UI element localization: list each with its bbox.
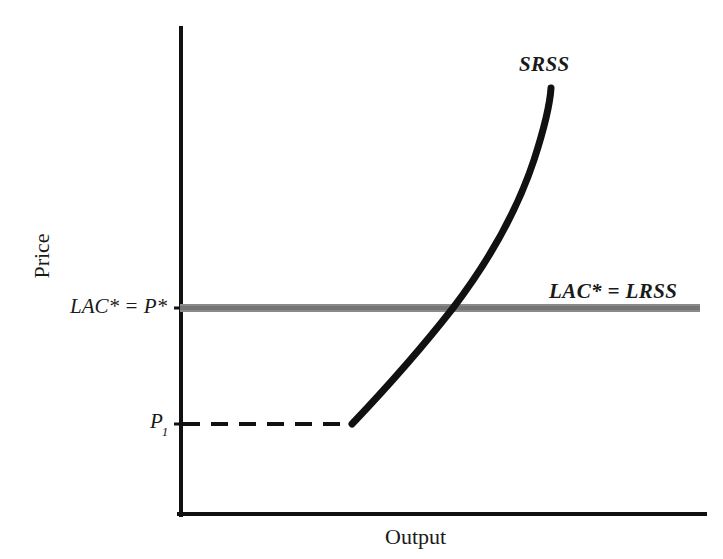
p1-price-label: P1 (150, 411, 169, 435)
lrss-line-label: LAC* = LRSS (549, 281, 677, 302)
p1-subscript: 1 (162, 424, 169, 439)
x-axis-title: Output (385, 526, 446, 548)
lac-star-price-star-label: LAC* = P* (70, 296, 167, 317)
srss-curve (352, 88, 551, 424)
p1-base: P (150, 409, 163, 433)
economics-supply-chart: Price Output SRSS LAC* = LRSS LAC* = P* … (0, 0, 723, 559)
y-axis-title: Price (0, 238, 84, 274)
srss-curve-label: SRSS (519, 54, 570, 75)
